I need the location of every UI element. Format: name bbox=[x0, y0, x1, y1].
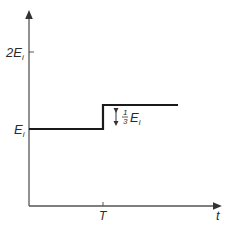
fraction-numerator: 1 bbox=[123, 108, 127, 117]
y-tick-label-ei: Ei bbox=[14, 122, 25, 139]
y-tick-label-2ei: 2Ei bbox=[5, 45, 24, 62]
step-function-line bbox=[29, 105, 178, 129]
delta-symbol: Ei bbox=[130, 110, 141, 127]
fraction-denominator: 3 bbox=[123, 117, 128, 126]
x-axis-label: t bbox=[216, 208, 221, 223]
step-diagram: 2Ei Ei T t 1 3 Ei bbox=[0, 0, 234, 232]
x-tick-label-t: T bbox=[99, 209, 108, 223]
